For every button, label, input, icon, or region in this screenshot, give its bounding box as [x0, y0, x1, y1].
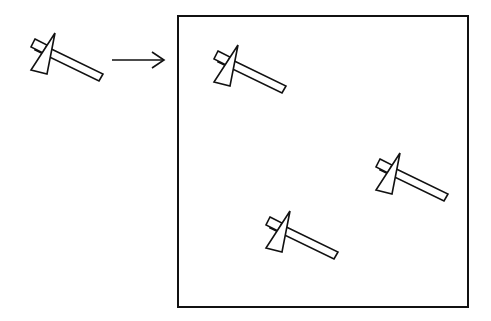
- right-arrow-icon: [112, 52, 164, 68]
- diagram-canvas: [0, 0, 491, 321]
- frame-figure-2: [376, 153, 448, 201]
- frame-figure-3: [266, 211, 338, 259]
- source-figure: [31, 33, 103, 81]
- frame-figure-1: [214, 45, 286, 93]
